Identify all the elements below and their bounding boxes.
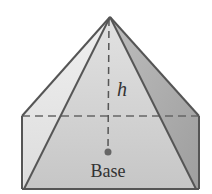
- pyramid-diagram: h Base: [0, 0, 212, 194]
- height-label: h: [117, 78, 127, 100]
- pyramid-figure: h Base: [0, 0, 212, 194]
- base-label: Base: [91, 161, 126, 181]
- base-center-dot: [105, 149, 112, 156]
